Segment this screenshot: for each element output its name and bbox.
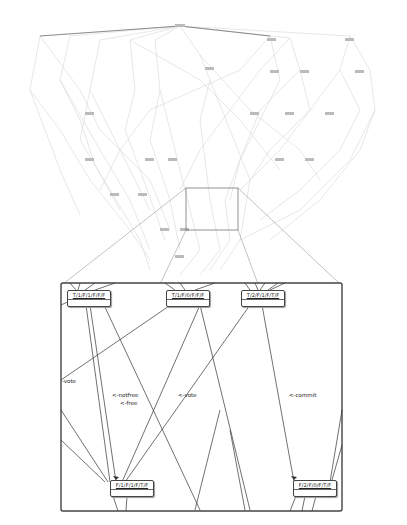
state-node-3[interactable]: T/2/F/1/F/T/F xyxy=(241,290,285,307)
state-node-2[interactable]: T/1/F/0/F/F/F xyxy=(166,290,210,307)
overview-root-edges xyxy=(40,26,270,36)
state-node-4[interactable]: F/1/F/1/F/T/F xyxy=(110,480,154,497)
edge-label-notfree: <-notfree xyxy=(112,392,138,398)
node-label: T/1/F/1/F/F/F xyxy=(68,291,110,300)
edge-label-commit: <-commit xyxy=(289,392,316,398)
state-node-1[interactable]: T/1/F/1/F/F/F xyxy=(67,290,111,307)
node-label: T/2/F/1/F/T/F xyxy=(242,291,284,300)
node-label: F/2/F/0/F/T/F xyxy=(294,481,336,490)
node-label: T/1/F/0/F/F/F xyxy=(167,291,209,300)
node-label: F/1/F/1/F/T/F xyxy=(111,481,153,490)
overview-edges xyxy=(30,26,375,275)
edge-label-vote-2: <-vote xyxy=(178,392,197,398)
edge-label-vote: -vote xyxy=(62,378,76,384)
overview-graph xyxy=(0,0,407,525)
state-node-5[interactable]: F/2/F/0/F/T/F xyxy=(293,480,337,497)
zoom-connector-lines xyxy=(63,188,340,284)
edge-label-free: <-free xyxy=(120,400,137,406)
